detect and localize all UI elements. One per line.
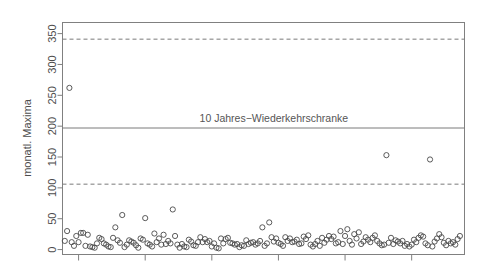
data-point — [85, 232, 90, 237]
data-point — [384, 153, 389, 158]
y-axis-title: monatl. Maxima — [21, 98, 33, 177]
data-point — [356, 230, 361, 235]
y-tick-label: 350 — [46, 24, 58, 42]
data-point — [74, 233, 79, 238]
data-point — [345, 227, 350, 232]
y-tick-label: 50 — [46, 213, 58, 225]
data-point — [338, 228, 343, 233]
data-point — [94, 241, 99, 246]
data-point — [260, 225, 265, 230]
y-tick-label: 150 — [46, 148, 58, 166]
chart-container: 050100150200250300350 10 Jahres−Wiederke… — [0, 0, 490, 275]
data-point — [120, 212, 125, 217]
data-point — [267, 220, 272, 225]
data-point — [342, 233, 347, 238]
y-tick-label: 0 — [46, 247, 58, 253]
y-tick-label: 200 — [46, 117, 58, 135]
data-point — [354, 236, 359, 241]
data-point — [64, 228, 69, 233]
plot-frame — [63, 23, 465, 255]
return-level-annotation: 10 Jahres−Wiederkehrschranke — [200, 112, 349, 124]
data-point — [170, 207, 175, 212]
y-tick-label: 100 — [46, 179, 58, 197]
data-point — [161, 232, 166, 237]
data-point — [172, 233, 177, 238]
y-tick-label: 300 — [46, 55, 58, 73]
data-point — [67, 85, 72, 90]
y-axis: 050100150200250300350 — [46, 24, 62, 252]
data-point — [76, 240, 81, 245]
data-points-group — [62, 85, 462, 251]
x-axis — [79, 255, 412, 261]
scatter-plot: 050100150200250300350 10 Jahres−Wiederke… — [0, 0, 490, 275]
data-point — [152, 231, 157, 236]
data-point — [113, 225, 118, 230]
y-tick-label: 250 — [46, 86, 58, 104]
data-point — [427, 157, 432, 162]
data-point — [340, 241, 345, 246]
data-point — [143, 216, 148, 221]
